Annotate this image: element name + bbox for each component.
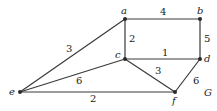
node-e <box>18 90 22 94</box>
node-f <box>173 90 177 94</box>
weight-c-d: 1 <box>162 47 168 58</box>
weight-b-d: 5 <box>204 33 210 44</box>
node-label-b: b <box>197 5 203 16</box>
edge-c-f <box>125 59 175 92</box>
edge-c-e <box>20 59 125 92</box>
node-label-d: d <box>204 53 210 64</box>
node-label-a: a <box>121 5 127 16</box>
node-label-f: f <box>171 95 178 106</box>
weight-a-b: 4 <box>160 6 166 17</box>
weight-a-c: 2 <box>129 33 135 44</box>
weight-e-f: 2 <box>90 93 96 104</box>
weight-c-e: 6 <box>76 75 82 86</box>
node-label-e: e <box>9 86 15 97</box>
weight-c-f: 3 <box>155 65 161 76</box>
node-a <box>123 17 127 21</box>
node-label-c: c <box>115 49 121 60</box>
node-d <box>198 57 202 61</box>
edge-a-e <box>20 19 125 92</box>
weight-a-e: 3 <box>66 43 72 54</box>
node-b <box>198 17 202 21</box>
weighted-graph-diagram: a b c d e f 4 5 2 1 3 6 3 6 2 G <box>0 0 217 111</box>
node-c <box>123 57 127 61</box>
graph-name-label: G <box>204 87 212 98</box>
weight-d-f: 6 <box>193 75 199 86</box>
